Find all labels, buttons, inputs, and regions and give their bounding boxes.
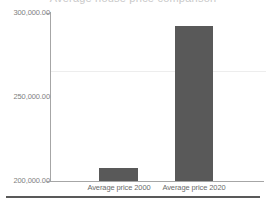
bar-average-price-2000[interactable] <box>99 168 138 181</box>
y-axis-ticks: 300,000.00 250,000.00 200,000.00 <box>0 0 50 204</box>
x-tick-label-average-price-2020: Average price 2020 <box>154 183 234 192</box>
y-tick-label-250000: 250,000.00 <box>2 93 50 101</box>
chart-title-text: Average house price comparison <box>50 0 217 4</box>
bottom-divider <box>6 196 260 198</box>
x-tick-label-average-price-2000: Average price 2000 <box>79 183 159 192</box>
x-axis-line <box>50 181 264 182</box>
y-tick-label-300000: 300,000.00 <box>2 9 50 17</box>
y-axis-line <box>50 12 51 182</box>
bar-chart: Average house price comparison 300,000.0… <box>0 0 266 204</box>
y-tick-mark-200000 <box>46 181 50 182</box>
bar-average-price-2020[interactable] <box>175 26 213 181</box>
gridline-minor <box>51 71 266 72</box>
y-tick-mark-300000 <box>46 13 50 14</box>
y-tick-label-200000: 200,000.00 <box>2 177 50 185</box>
